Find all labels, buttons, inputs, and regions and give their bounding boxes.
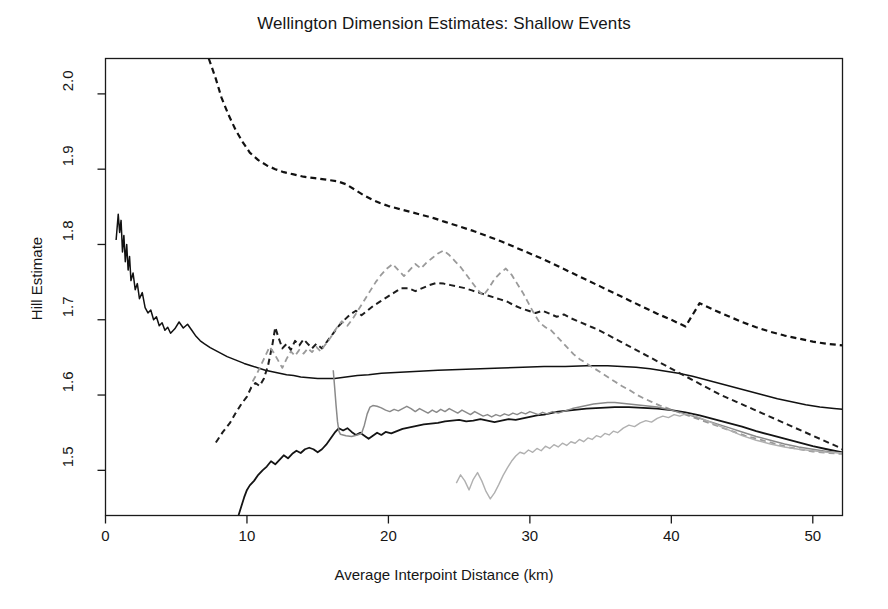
x-tick-label: 0 xyxy=(86,527,126,544)
axes-layer xyxy=(98,59,843,524)
plot-frame xyxy=(106,59,843,516)
series-line xyxy=(209,59,843,346)
y-tick-label: 1.6 xyxy=(59,372,76,418)
series-layer xyxy=(116,59,842,516)
y-tick-label: 1.7 xyxy=(59,296,76,342)
y-tick-label: 1.8 xyxy=(59,221,76,267)
plot-canvas xyxy=(0,0,888,609)
series-line xyxy=(216,283,843,449)
series-line xyxy=(333,370,842,453)
series-line xyxy=(253,250,843,453)
y-tick-label: 1.5 xyxy=(59,447,76,493)
series-line xyxy=(238,407,842,515)
series-line xyxy=(456,414,842,499)
x-tick-label: 20 xyxy=(368,527,408,544)
x-tick-label: 40 xyxy=(651,527,691,544)
x-tick-label: 50 xyxy=(793,527,833,544)
y-tick-label: 2.0 xyxy=(59,70,76,116)
x-tick-label: 10 xyxy=(227,527,267,544)
series-line xyxy=(116,214,842,409)
y-tick-label: 1.9 xyxy=(59,146,76,192)
y-tick-marks xyxy=(98,94,106,470)
x-tick-label: 30 xyxy=(510,527,550,544)
figure-container: Wellington Dimension Estimates: Shallow … xyxy=(0,0,888,609)
x-tick-marks xyxy=(106,516,813,524)
